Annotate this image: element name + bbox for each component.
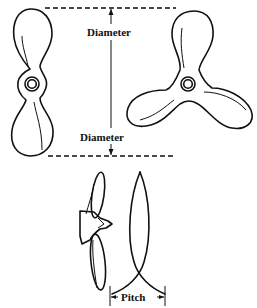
arrow-right-icon (159, 295, 164, 299)
pitch-label: Pitch (121, 291, 145, 303)
propeller-diagram: Diameter Diameter Pitch (0, 0, 257, 308)
helix-path (112, 172, 165, 294)
diameter-label-bottom: Diameter (80, 131, 124, 143)
three-blade-propeller (127, 11, 252, 128)
two-blade-propeller (12, 9, 53, 156)
side-view-propeller (80, 171, 112, 290)
arrow-left-icon (111, 295, 116, 299)
diagram-canvas (0, 0, 257, 308)
arrow-down-icon (109, 149, 114, 155)
diameter-label-top: Diameter (87, 26, 131, 38)
arrow-up-icon (109, 9, 114, 15)
